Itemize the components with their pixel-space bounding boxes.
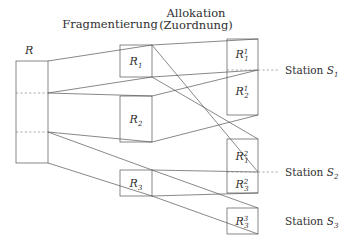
allocation-r2-s1-sub: 2	[243, 92, 249, 100]
allocation-r1-s1-sub: 1	[244, 55, 248, 63]
station-s2-caption: Station S2	[285, 166, 339, 181]
connector-r1-to-r1s1-bottom	[152, 70, 258, 77]
station-s3-base: S	[327, 215, 334, 227]
connector-r-to-r1-bottom	[48, 77, 152, 93]
heading-allokation-line2: (Zuordnung)	[159, 18, 233, 32]
heading-fragmentierung: Fragmentierung	[62, 17, 158, 31]
fragment-r1-label: R1	[129, 55, 143, 70]
station-s3-prefix: Station	[285, 215, 324, 227]
relation-r-box[interactable]: R	[16, 44, 48, 163]
station-s1-base: S	[327, 64, 334, 76]
fragment-r2-base: R	[129, 113, 138, 126]
relation-r-label: R	[24, 44, 33, 57]
fragment-r1-sub: 1	[138, 62, 142, 70]
connector-r-to-r3-top	[48, 132, 152, 170]
allocation-r1-s2-label: R21	[234, 150, 248, 165]
connector-r-to-r2-bottom	[48, 132, 152, 142]
allocation-r3-s3-label: R33	[234, 215, 249, 230]
allocation-r1-s2-base: R	[234, 150, 243, 163]
connector-r3-to-r3s2-bottom	[152, 193, 258, 196]
fragment-r3-label: R3	[129, 177, 143, 192]
fragment-box-r1[interactable]: R1	[120, 45, 152, 77]
station-s1-sub: 1	[334, 71, 338, 79]
station-s2-prefix: Station	[285, 166, 324, 178]
allocation-r3-s2-label: R23	[234, 178, 249, 193]
fragment-r3-sub: 3	[138, 184, 143, 192]
fragment-r1-base: R	[129, 55, 138, 68]
allocation-r1-s1-label: R11	[234, 48, 248, 63]
connector-r-to-r2-top	[48, 93, 152, 96]
station-s2-base: S	[327, 166, 334, 178]
allocation-r3-s2-base: R	[234, 178, 243, 191]
station-s2-sub: 2	[333, 173, 339, 181]
allocation-r2-s1-base: R	[234, 85, 243, 98]
fragment-r2-label: R2	[129, 113, 143, 128]
connectors-allocation	[152, 39, 258, 234]
figure-canvas: Fragmentierung Allokation (Zuordnung)	[0, 0, 339, 245]
connector-r2-to-r2s1-bottom	[152, 115, 258, 142]
allocation-r1-s1-base: R	[234, 48, 243, 61]
allocation-r1-s2-sub: 1	[244, 157, 248, 165]
station-s3-caption: Station S3	[285, 215, 339, 230]
relation-r-rect[interactable]	[16, 61, 48, 163]
allocation-r3-s2-sub: 3	[244, 185, 249, 193]
fragmentation-allocation-diagram: Fragmentierung Allokation (Zuordnung)	[0, 0, 339, 245]
station-s1-prefix: Station	[285, 64, 324, 76]
station-s1-caption: Station S1	[285, 64, 338, 79]
fragment-box-r2[interactable]: R2	[120, 96, 152, 142]
allocation-r3-s3-base: R	[234, 215, 243, 228]
station-s1-box[interactable]: R11 R12	[227, 39, 258, 115]
connector-r1-to-r1s1-top	[152, 39, 258, 45]
fragment-r3-base: R	[129, 177, 138, 190]
station-s3-box[interactable]: R33	[227, 208, 258, 234]
station-s3-sub: 3	[334, 222, 339, 230]
allocation-r3-s3-sub: 3	[244, 222, 249, 230]
allocation-r2-s1-label: R12	[234, 85, 249, 100]
fragment-r2-sub: 2	[137, 120, 143, 128]
fragment-box-r3[interactable]: R3	[120, 170, 152, 196]
